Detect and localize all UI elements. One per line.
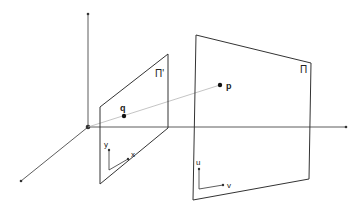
big-axes-lines — [199, 169, 223, 189]
axis-endpoints — [20, 13, 348, 183]
label-axis-u: u — [196, 158, 200, 167]
depth-axis-end-icon — [20, 180, 23, 183]
small-axis-x-end-icon — [127, 158, 129, 160]
diagram-svg: q p Π' Π y x u v — [0, 0, 362, 213]
big-axis-v-end-icon — [222, 184, 224, 186]
small-axes-lines — [109, 150, 128, 170]
label-p: p — [226, 81, 232, 91]
vertical-axis-end-icon — [87, 13, 90, 16]
big-plane-axes — [199, 169, 223, 189]
point-q — [122, 114, 126, 118]
big-axis-u-end-icon — [198, 168, 200, 170]
label-axis-v: v — [227, 181, 231, 190]
label-plane-small: Π' — [155, 68, 164, 79]
label-axis-y: y — [104, 140, 108, 149]
point-p — [218, 83, 222, 87]
projection-ray — [88, 85, 220, 127]
label-q: q — [120, 103, 126, 113]
label-plane-big: Π — [300, 64, 307, 75]
image-plane-big — [193, 35, 311, 200]
small-plane-axes — [109, 150, 128, 170]
diagram-canvas: q p Π' Π y x u v — [0, 0, 362, 213]
small-axis-y-end-icon — [108, 149, 110, 151]
label-axis-x: x — [131, 150, 135, 159]
world-axes — [21, 14, 346, 181]
depth-axis — [21, 127, 88, 181]
horizontal-axis-end-icon — [345, 126, 348, 129]
